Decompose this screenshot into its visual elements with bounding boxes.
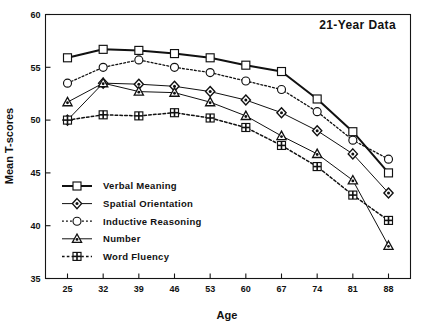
y-tick-label: 40 xyxy=(30,221,40,231)
line-chart: 354045505560 25323946536067748188 Age Me… xyxy=(0,0,423,326)
legend-item-verbal-meaning: Verbal Meaning xyxy=(62,180,177,191)
chart-title: 21-Year Data xyxy=(319,18,396,32)
data-point-marker xyxy=(242,123,250,131)
x-tick-label: 67 xyxy=(276,284,286,294)
data-point-marker xyxy=(64,116,72,124)
data-point-marker xyxy=(349,136,357,144)
y-tick-label: 55 xyxy=(30,63,40,73)
data-point-marker xyxy=(64,79,72,87)
y-tick-label: 45 xyxy=(30,168,40,178)
x-tick-label: 81 xyxy=(348,284,358,294)
data-point-marker xyxy=(385,155,393,163)
data-point-marker xyxy=(242,61,250,69)
y-tick-label: 60 xyxy=(30,10,40,20)
x-tick-label: 32 xyxy=(98,284,108,294)
y-axis-title: Mean T-scores xyxy=(3,108,15,184)
data-point-marker xyxy=(206,69,214,77)
data-point-marker xyxy=(349,128,357,136)
data-point-marker xyxy=(73,182,81,190)
data-point-marker xyxy=(278,141,286,149)
data-point-marker xyxy=(171,109,179,117)
x-tick-label: 39 xyxy=(134,284,144,294)
x-axis-title: Age xyxy=(217,309,238,321)
data-point-marker xyxy=(99,45,107,53)
data-point-marker xyxy=(73,252,81,260)
data-point-marker xyxy=(135,56,143,64)
legend-label: Number xyxy=(103,233,141,244)
y-tick-label: 50 xyxy=(30,115,40,125)
data-point-marker xyxy=(349,191,357,199)
chart-page: 354045505560 25323946536067748188 Age Me… xyxy=(0,0,423,326)
x-tick-label: 88 xyxy=(383,284,393,294)
data-point-marker xyxy=(385,169,393,177)
y-tick-label: 35 xyxy=(30,274,40,284)
data-point-marker xyxy=(135,112,143,120)
data-point-marker xyxy=(385,216,393,224)
data-point-marker xyxy=(206,114,214,122)
data-point-marker xyxy=(278,85,286,93)
legend-item-word-fluency: Word Fluency xyxy=(62,251,170,262)
data-point-marker xyxy=(313,108,321,116)
data-point-marker xyxy=(64,54,72,62)
data-point-marker xyxy=(278,68,286,76)
data-point-marker xyxy=(73,217,81,225)
x-tick-label: 60 xyxy=(241,284,251,294)
legend-label: Word Fluency xyxy=(103,251,170,262)
data-point-marker xyxy=(242,77,250,85)
data-point-marker xyxy=(313,163,321,171)
data-point-marker xyxy=(99,63,107,71)
data-point-marker xyxy=(99,111,107,119)
legend-label: Spatial Orientation xyxy=(103,198,193,209)
chart-background xyxy=(0,0,423,326)
legend-label: Verbal Meaning xyxy=(103,180,177,191)
data-point-marker xyxy=(206,54,214,62)
x-tick-label: 25 xyxy=(62,284,72,294)
data-point-marker xyxy=(171,63,179,71)
x-tick-label: 46 xyxy=(169,284,179,294)
data-point-marker xyxy=(313,95,321,103)
x-tick-label: 53 xyxy=(205,284,215,294)
legend-label: Inductive Reasoning xyxy=(103,216,202,227)
x-tick-label: 74 xyxy=(312,284,322,294)
data-point-marker xyxy=(171,50,179,58)
data-point-marker xyxy=(135,46,143,54)
